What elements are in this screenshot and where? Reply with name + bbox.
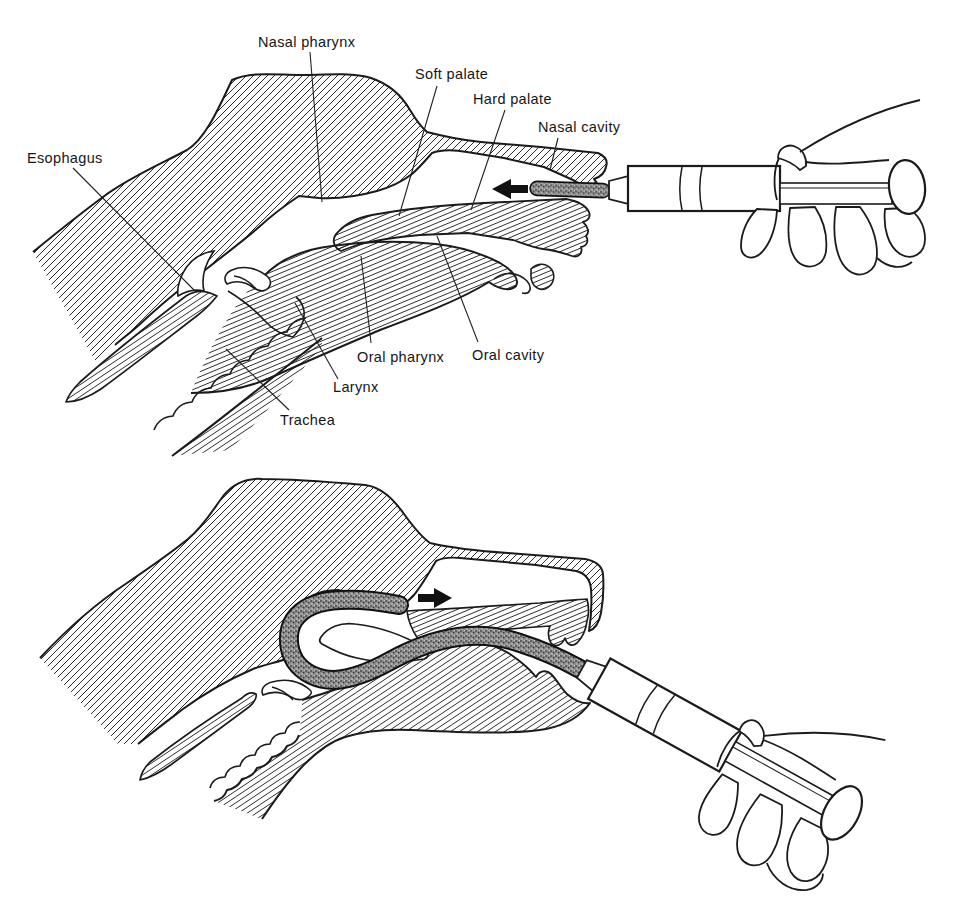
index-knuckle	[778, 146, 806, 170]
syringe-top	[609, 166, 892, 211]
hand-top-silhouette	[806, 160, 889, 164]
syringe-barrel	[588, 659, 741, 772]
label-nasal-pharynx: Nasal pharynx	[258, 34, 356, 50]
direction-arrow-left-icon	[492, 179, 528, 199]
label-trachea: Trachea	[280, 412, 336, 428]
finger	[834, 207, 877, 274]
epiglottis	[225, 268, 270, 291]
finger	[789, 207, 827, 266]
finger	[885, 208, 925, 257]
figure-canvas: Nasal pharynx Soft palate Hard palate Na…	[0, 0, 969, 919]
syringe-bottom	[538, 595, 898, 901]
anatomy-diagram: Nasal pharynx Soft palate Hard palate Na…	[0, 0, 969, 919]
thumb-finger	[741, 209, 777, 257]
pinky-curl-line	[877, 258, 912, 267]
lower-incisor	[531, 264, 554, 289]
label-hard-palate: Hard palate	[473, 91, 552, 107]
label-oral-pharynx: Oral pharynx	[357, 349, 445, 365]
leader-line	[471, 110, 505, 210]
feeding-tube	[530, 181, 610, 198]
top-panel: Nasal pharynx Soft palate Hard palate Na…	[27, 34, 928, 456]
syringe-tip	[609, 176, 629, 204]
label-nasal-cavity: Nasal cavity	[538, 119, 621, 135]
syringe-barrel	[628, 166, 780, 211]
plunger-rod	[780, 183, 892, 204]
epiglottis	[262, 680, 311, 699]
bottom-panel	[40, 479, 898, 900]
label-larynx: Larynx	[333, 379, 379, 395]
label-esophagus: Esophagus	[27, 150, 103, 166]
label-oral-cavity: Oral cavity	[472, 347, 545, 363]
hand-back-line	[800, 100, 920, 152]
direction-arrow-right-icon	[418, 588, 452, 608]
label-soft-palate: Soft palate	[415, 66, 488, 82]
plunger-thumb-plate	[886, 158, 927, 215]
